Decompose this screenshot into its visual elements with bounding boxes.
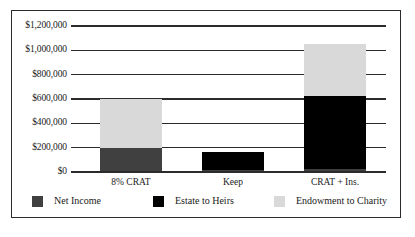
bar-segment [202,152,264,170]
y-axis-label: $600,000 [12,94,67,104]
legend-label: Endowment to Charity [296,196,387,206]
bar-segment [304,96,366,169]
legend-swatch [274,196,285,207]
bar-segment [100,148,162,172]
y-axis-tick [71,25,80,27]
y-axis-label: $400,000 [12,118,67,128]
y-axis-label: $1,000,000 [12,45,67,55]
legend-label: Net Income [54,196,101,206]
legend-swatch [153,196,164,207]
bar-segment [100,99,162,148]
chart-legend: Net IncomeEstate to HeirsEndowment to Ch… [12,187,402,217]
x-axis-baseline [80,171,386,173]
legend-swatch [32,196,43,207]
gridline [80,25,386,27]
y-axis-label: $200,000 [12,143,67,153]
chart-figure: $0$200,000$400,000$600,000$800,000$1,000… [11,10,401,218]
legend-item: Endowment to Charity [274,193,387,209]
y-axis-label: $1,200,000 [12,21,67,31]
y-axis-tick [71,98,80,100]
y-axis-tick [71,50,80,52]
y-axis-label: $0 [12,167,67,177]
bar-segment [304,44,366,96]
legend-label: Estate to Heirs [175,196,234,206]
legend-item: Estate to Heirs [153,193,234,209]
y-axis-label: $800,000 [12,70,67,80]
y-axis-tick [71,74,80,76]
y-axis-tick [71,171,80,173]
y-axis-tick [71,147,80,149]
legend-item: Net Income [32,193,101,209]
y-axis-tick [71,123,80,125]
